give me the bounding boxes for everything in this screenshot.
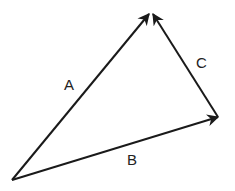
vector-b-arrow — [12, 117, 218, 180]
vector-c-arrow — [153, 14, 218, 117]
vector-c-label: C — [196, 54, 207, 71]
vector-b-label: B — [127, 151, 137, 168]
vector-diagram: A B C — [0, 0, 235, 191]
vector-a-label: A — [64, 76, 74, 93]
